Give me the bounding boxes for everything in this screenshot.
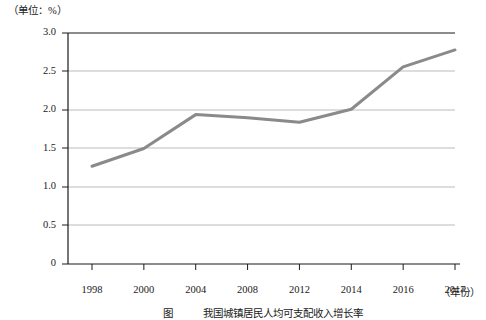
y-tick-label: 2.5 bbox=[22, 65, 56, 76]
y-tick-label: 3.0 bbox=[22, 26, 56, 37]
y-tick-label: 0.5 bbox=[22, 219, 56, 230]
x-axis-ticks bbox=[92, 264, 455, 270]
x-tick-label: 2016 bbox=[380, 284, 426, 295]
y-tick-label: 0 bbox=[22, 257, 56, 268]
x-tick-label: 2008 bbox=[225, 284, 271, 295]
figure-caption: 图 我国城镇居民人均可支配收入增长率 bbox=[0, 305, 486, 320]
x-tick-label: 2004 bbox=[173, 284, 219, 295]
data-series-line bbox=[92, 50, 455, 166]
gridlines bbox=[68, 33, 455, 225]
x-axis-name-label: （年份） bbox=[440, 284, 480, 299]
x-tick-label: 2014 bbox=[328, 284, 374, 295]
y-tick-label: 1.0 bbox=[22, 180, 56, 191]
y-axis-ticks bbox=[62, 33, 68, 264]
x-tick-label: 2000 bbox=[121, 284, 167, 295]
x-tick-label: 1998 bbox=[69, 284, 115, 295]
y-tick-label: 2.0 bbox=[22, 103, 56, 114]
y-tick-label: 1.5 bbox=[22, 142, 56, 153]
x-tick-label: 2012 bbox=[276, 284, 322, 295]
